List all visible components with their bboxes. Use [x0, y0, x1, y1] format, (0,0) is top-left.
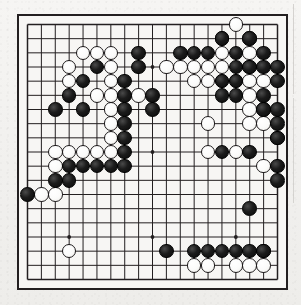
black-stone[interactable]: [256, 244, 271, 259]
black-stone[interactable]: [215, 244, 230, 259]
black-stone[interactable]: [229, 88, 244, 103]
black-stone[interactable]: [201, 46, 216, 61]
black-stone[interactable]: [270, 131, 285, 146]
white-stone[interactable]: [90, 145, 105, 160]
black-stone[interactable]: [62, 173, 77, 188]
black-stone[interactable]: [270, 102, 285, 117]
black-stone[interactable]: [229, 46, 244, 61]
black-stone[interactable]: [270, 74, 285, 89]
black-stone[interactable]: [256, 88, 271, 103]
black-stone[interactable]: [48, 102, 63, 117]
black-stone[interactable]: [201, 244, 216, 259]
black-stone[interactable]: [229, 74, 244, 89]
black-stone[interactable]: [104, 159, 119, 174]
white-stone[interactable]: [48, 145, 63, 160]
white-stone[interactable]: [62, 145, 77, 160]
black-stone[interactable]: [117, 159, 132, 174]
white-stone[interactable]: [242, 258, 257, 273]
black-stone[interactable]: [90, 60, 105, 75]
black-stone[interactable]: [117, 102, 132, 117]
white-stone[interactable]: [229, 145, 244, 160]
white-stone[interactable]: [201, 74, 216, 89]
white-stone[interactable]: [256, 74, 271, 89]
white-stone[interactable]: [229, 17, 244, 32]
black-stone[interactable]: [145, 102, 160, 117]
white-stone[interactable]: [242, 74, 257, 89]
white-stone[interactable]: [256, 258, 271, 273]
white-stone[interactable]: [48, 187, 63, 202]
white-stone[interactable]: [62, 244, 77, 259]
black-stone[interactable]: [242, 244, 257, 259]
black-stone[interactable]: [215, 88, 230, 103]
black-stone[interactable]: [229, 60, 244, 75]
white-stone[interactable]: [104, 102, 119, 117]
black-stone[interactable]: [256, 102, 271, 117]
white-stone[interactable]: [242, 102, 257, 117]
black-stone[interactable]: [48, 173, 63, 188]
black-stone[interactable]: [76, 159, 91, 174]
white-stone[interactable]: [242, 116, 257, 131]
white-stone[interactable]: [48, 159, 63, 174]
go-board[interactable]: [17, 14, 288, 290]
white-stone[interactable]: [256, 159, 271, 174]
white-stone[interactable]: [90, 88, 105, 103]
black-stone[interactable]: [62, 159, 77, 174]
black-stone[interactable]: [270, 60, 285, 75]
black-stone[interactable]: [117, 116, 132, 131]
black-stone[interactable]: [173, 46, 188, 61]
black-stone[interactable]: [187, 244, 202, 259]
white-stone[interactable]: [62, 74, 77, 89]
white-stone[interactable]: [201, 145, 216, 160]
white-stone[interactable]: [201, 116, 216, 131]
white-stone[interactable]: [159, 60, 174, 75]
black-stone[interactable]: [215, 145, 230, 160]
white-stone[interactable]: [187, 74, 202, 89]
black-stone[interactable]: [159, 244, 174, 259]
stone-layer[interactable]: [17, 14, 288, 290]
black-stone[interactable]: [62, 88, 77, 103]
black-stone[interactable]: [131, 60, 146, 75]
black-stone[interactable]: [90, 159, 105, 174]
black-stone[interactable]: [270, 116, 285, 131]
white-stone[interactable]: [104, 131, 119, 146]
white-stone[interactable]: [104, 60, 119, 75]
white-stone[interactable]: [104, 46, 119, 61]
black-stone[interactable]: [270, 173, 285, 188]
white-stone[interactable]: [201, 60, 216, 75]
black-stone[interactable]: [20, 187, 35, 202]
black-stone[interactable]: [145, 88, 160, 103]
black-stone[interactable]: [242, 145, 257, 160]
black-stone[interactable]: [256, 46, 271, 61]
black-stone[interactable]: [117, 145, 132, 160]
black-stone[interactable]: [242, 201, 257, 216]
black-stone[interactable]: [215, 31, 230, 46]
black-stone[interactable]: [242, 31, 257, 46]
white-stone[interactable]: [104, 145, 119, 160]
black-stone[interactable]: [117, 74, 132, 89]
black-stone[interactable]: [270, 159, 285, 174]
white-stone[interactable]: [201, 258, 216, 273]
white-stone[interactable]: [104, 116, 119, 131]
white-stone[interactable]: [242, 88, 257, 103]
white-stone[interactable]: [187, 60, 202, 75]
white-stone[interactable]: [215, 60, 230, 75]
white-stone[interactable]: [76, 46, 91, 61]
white-stone[interactable]: [229, 258, 244, 273]
black-stone[interactable]: [187, 46, 202, 61]
black-stone[interactable]: [76, 102, 91, 117]
white-stone[interactable]: [34, 187, 49, 202]
black-stone[interactable]: [242, 60, 257, 75]
white-stone[interactable]: [90, 46, 105, 61]
white-stone[interactable]: [62, 60, 77, 75]
white-stone[interactable]: [187, 258, 202, 273]
white-stone[interactable]: [173, 60, 188, 75]
white-stone[interactable]: [242, 46, 257, 61]
black-stone[interactable]: [76, 74, 91, 89]
black-stone[interactable]: [131, 46, 146, 61]
white-stone[interactable]: [104, 88, 119, 103]
black-stone[interactable]: [256, 60, 271, 75]
black-stone[interactable]: [229, 244, 244, 259]
white-stone[interactable]: [215, 46, 230, 61]
black-stone[interactable]: [215, 74, 230, 89]
white-stone[interactable]: [256, 116, 271, 131]
